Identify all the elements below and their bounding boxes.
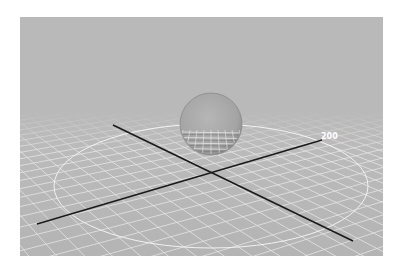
axis-label: 200 <box>321 132 338 141</box>
scene-canvas[interactable]: 200 <box>20 17 383 256</box>
3d-viewport[interactable]: 200 <box>20 17 383 256</box>
